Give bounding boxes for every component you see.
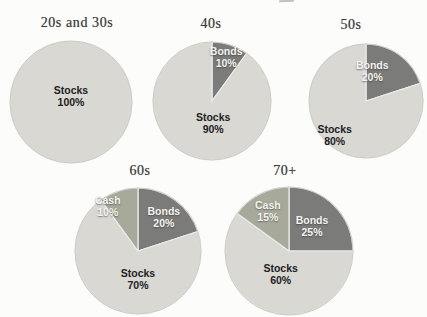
pie-70-label-cash: Cash15% bbox=[255, 199, 281, 223]
pie-60s-label-cash: Cash10% bbox=[95, 194, 121, 218]
pie-charts-svg: Stocks100%Bonds10%Stocks90%Bonds20%Stock… bbox=[0, 0, 427, 317]
pie-40s-slice-stocks bbox=[153, 42, 271, 160]
asset-allocation-pie-grid: 20s and 30s 40s 50s 60s 70+ Stocks100%Bo… bbox=[0, 0, 427, 317]
pie-20s-and-30s-label-stocks: Stocks100% bbox=[54, 84, 89, 108]
